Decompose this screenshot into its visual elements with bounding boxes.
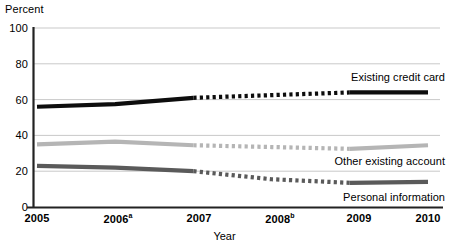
series-other-existing-account <box>37 142 428 149</box>
plot-area <box>0 0 449 249</box>
line-chart: Percent 100 80 60 40 20 0 2005 2006a 200… <box>0 0 449 249</box>
x-tick-2009: 2009 <box>347 212 372 224</box>
series-label-other-existing-account: Other existing account <box>315 155 445 167</box>
series-personal-information <box>37 166 428 183</box>
series-label-existing-credit-card: Existing credit card <box>333 71 445 83</box>
x-tick-2010: 2010 <box>416 212 441 224</box>
series-label-personal-information: Personal information <box>325 191 445 203</box>
series-layer <box>37 92 428 182</box>
x-tick-2006-text: 2006 <box>104 213 129 225</box>
x-tick-2008-text: 2008 <box>265 213 290 225</box>
series-solid-segment <box>350 145 428 149</box>
series-solid-segment <box>350 182 428 183</box>
series-dotted-segment <box>193 145 349 149</box>
x-tick-2008: 2008b <box>265 212 294 225</box>
x-tick-2007-text: 2007 <box>187 212 212 224</box>
x-tick-2005-text: 2005 <box>25 212 50 224</box>
x-tick-2006: 2006a <box>104 212 133 225</box>
x-tick-2008-footnote: b <box>290 212 294 219</box>
x-tick-2010-text: 2010 <box>416 212 441 224</box>
x-tick-2009-text: 2009 <box>347 212 372 224</box>
x-tick-2007: 2007 <box>187 212 212 224</box>
x-tick-2005: 2005 <box>25 212 50 224</box>
gridlines <box>33 28 440 171</box>
series-dotted-segment <box>193 171 349 183</box>
x-tick-2006-footnote: a <box>128 212 132 219</box>
series-solid-segment <box>37 142 193 146</box>
series-solid-segment <box>37 166 193 171</box>
series-dotted-segment <box>193 92 349 97</box>
x-axis-title: Year <box>0 230 449 242</box>
